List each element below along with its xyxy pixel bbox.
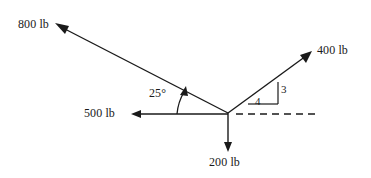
force-500-label: 500 lb (84, 107, 115, 119)
force-diagram-canvas (0, 0, 371, 178)
force-200-vector (224, 113, 232, 152)
force-400-arrowhead (300, 51, 312, 63)
force-800-arrowhead (55, 23, 69, 34)
force-800-vector (55, 23, 228, 113)
force-200-arrowhead (224, 142, 232, 152)
force-500-vector (131, 110, 228, 118)
force-800-label: 800 lb (18, 18, 49, 30)
slope-triangle (248, 82, 278, 104)
angle-arc-25-arrowhead (180, 86, 188, 96)
force-800-shaft (61, 27, 228, 113)
slope-rise-label: 3 (281, 83, 287, 95)
angle-25-label: 25° (149, 87, 166, 99)
force-200-label: 200 lb (209, 156, 240, 168)
force-500-arrowhead (131, 110, 141, 118)
slope-run-label: 4 (255, 95, 261, 107)
force-diagram: 800 lb 400 lb 500 lb 200 lb 25° 3 4 (0, 0, 371, 178)
force-400-label: 400 lb (317, 44, 348, 56)
